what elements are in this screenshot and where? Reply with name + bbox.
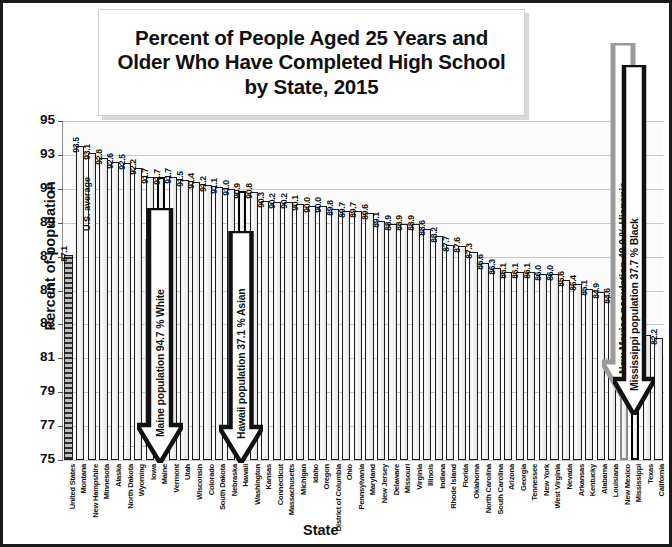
bar-slot: 90.1 xyxy=(294,121,306,460)
bar-new-york[interactable]: 86.0 xyxy=(539,274,547,460)
category-slot: Wisconsin xyxy=(189,462,201,522)
bar-maryland[interactable]: 89.6 xyxy=(365,213,373,460)
bar-missouri[interactable]: 88.9 xyxy=(400,224,408,460)
category-slot: Hawaii xyxy=(235,462,247,522)
bar-value-label: 89.8 xyxy=(325,200,335,216)
category-slot: Massachusetts xyxy=(282,462,294,522)
y-tick-label: 85 xyxy=(17,282,55,297)
category-slot: Rhode Island xyxy=(444,462,456,522)
bar-slot: 86.0 xyxy=(549,121,561,460)
bar-value-label: 90.0 xyxy=(302,197,312,213)
bar-value-label: 85.1 xyxy=(579,280,589,296)
bar-value-label: 90.2 xyxy=(267,194,277,210)
category-slot: West Virginia xyxy=(548,462,560,522)
bar-value-label: 90.0 xyxy=(313,197,323,213)
category-slot: Michigan xyxy=(293,462,305,522)
bar-massachusetts[interactable]: 90.2 xyxy=(284,202,292,460)
bar-nevada[interactable]: 85.6 xyxy=(562,280,570,460)
bar-value-label: 87.3 xyxy=(463,243,473,259)
bar-oklahoma[interactable]: 87.3 xyxy=(469,252,477,460)
category-slot: Oregon xyxy=(316,462,328,522)
bar-value-label: 91.0 xyxy=(221,180,231,196)
bar-rhode-island[interactable]: 87.7 xyxy=(446,245,454,460)
category-slot: Texas xyxy=(640,462,652,522)
y-tick-label: 83 xyxy=(17,315,55,330)
category-slot: Colorado xyxy=(201,462,213,522)
category-slot: Georgia xyxy=(513,462,525,522)
y-tick-label: 87 xyxy=(17,248,55,263)
category-slot: Maryland xyxy=(363,462,375,522)
chart-title-box: Percent of People Aged 25 Years and Olde… xyxy=(98,9,525,116)
bar-south-carolina[interactable]: 86.3 xyxy=(493,268,501,460)
category-slot: California xyxy=(652,462,664,522)
bar-delaware[interactable]: 88.9 xyxy=(388,224,396,460)
category-slot: Vermont xyxy=(166,462,178,522)
bar-florida[interactable]: 87.6 xyxy=(458,246,466,460)
bar-value-label: 88.9 xyxy=(383,216,393,232)
bar-slot: 86.0 xyxy=(537,121,549,460)
bar-slot: 89.7 xyxy=(352,121,364,460)
category-slot: Virginia xyxy=(409,462,421,522)
category-slot: Washington xyxy=(247,462,259,522)
bar-north-dakota[interactable]: 92.5 xyxy=(123,163,131,460)
bar-district-of-columbia[interactable]: 89.8 xyxy=(331,209,339,460)
annotation-callout-maine: Maine population 94.7 % White xyxy=(137,208,183,463)
bar-value-label: 86.3 xyxy=(487,260,497,276)
bar-value-label: 85.4 xyxy=(568,275,578,291)
bar-value-label: 86.0 xyxy=(544,265,554,281)
category-slot: Alabama xyxy=(594,462,606,522)
y-tick-label: 77 xyxy=(17,417,55,432)
bar-california[interactable]: 82.2 xyxy=(654,338,662,460)
bar-slot: 92.8 xyxy=(98,121,110,460)
category-slot: Louisiana xyxy=(605,462,617,522)
bar-idaho[interactable]: 90.0 xyxy=(308,206,316,460)
bar-west-virginia[interactable]: 86.0 xyxy=(550,274,558,460)
bar-illinois[interactable]: 88.6 xyxy=(423,229,431,460)
bar-value-label: 91.4 xyxy=(186,173,196,189)
bar-wisconsin[interactable]: 91.4 xyxy=(192,182,200,460)
bar-value-label: 91.7 xyxy=(151,169,161,185)
bar-value-label: 90.3 xyxy=(255,192,265,208)
bar-united-states[interactable]: 87.1 xyxy=(64,255,73,460)
bar-arizona[interactable]: 86.1 xyxy=(504,272,512,460)
bar-slot: 91.2 xyxy=(202,121,214,460)
category-slot: Arizona xyxy=(501,462,513,522)
bar-slot: 89.8 xyxy=(329,121,341,460)
bar-value-label: 86.1 xyxy=(521,263,531,279)
bar-value-label: 88.9 xyxy=(406,216,416,232)
bar-north-carolina[interactable]: 86.6 xyxy=(481,263,489,460)
bar-new-jersey[interactable]: 89.1 xyxy=(377,221,385,460)
category-slot: United States xyxy=(62,462,74,522)
bar-minnesota[interactable]: 92.8 xyxy=(99,158,107,460)
bar-value-label: 86.0 xyxy=(533,265,543,281)
bar-slot: 86.1 xyxy=(502,121,514,460)
bar-slot: 93.5 xyxy=(75,121,87,460)
bar-alaska[interactable]: 92.6 xyxy=(111,162,119,460)
category-slot: South Carolina xyxy=(490,462,502,522)
bar-virginia[interactable]: 88.9 xyxy=(412,224,420,460)
chart-figure: Percent of People Aged 25 Years and Olde… xyxy=(0,0,672,547)
bar-value-label: 90.2 xyxy=(278,194,288,210)
bar-slot: 90.2 xyxy=(283,121,295,460)
bar-indiana[interactable]: 88.2 xyxy=(435,236,443,460)
bar-colorado[interactable]: 91.2 xyxy=(203,185,211,460)
category-slot: North Carolina xyxy=(478,462,490,522)
category-slot: Maine xyxy=(155,462,167,522)
title-line-2: Older Who Have Completed High School xyxy=(117,50,505,73)
bar-michigan[interactable]: 90.1 xyxy=(296,204,304,460)
bar-pennsylvania[interactable]: 89.7 xyxy=(354,211,362,460)
category-slot: New York xyxy=(536,462,548,522)
category-slot: Alaska xyxy=(108,462,120,522)
bar-oregon[interactable]: 90.0 xyxy=(319,206,327,460)
bar-tennessee[interactable]: 86.1 xyxy=(527,272,535,460)
bar-value-label: 86.1 xyxy=(510,263,520,279)
category-slot: Wyoming xyxy=(131,462,143,522)
bar-ohio[interactable]: 89.7 xyxy=(342,211,350,460)
bar-arkansas[interactable]: 85.4 xyxy=(573,284,581,460)
bar-georgia[interactable]: 86.1 xyxy=(516,272,524,460)
y-tick-label: 89 xyxy=(17,214,55,229)
bar-connecticut[interactable]: 90.2 xyxy=(273,202,281,460)
bar-slot: 90.0 xyxy=(306,121,318,460)
category-slot: Indiana xyxy=(432,462,444,522)
bar-kentucky[interactable]: 85.1 xyxy=(585,289,593,460)
